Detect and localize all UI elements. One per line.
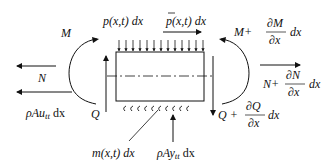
label-m-load: m(x,t) dx [92,146,135,160]
moment-left-arc [69,39,97,104]
svg-text:∂M: ∂M [267,16,284,30]
m-leader-line [129,110,158,141]
beam-element-diagram: M N ρAutt dx Q p(x,t) dx p(x,t) dx M+ ∂M… [0,0,336,168]
label-inertia-axial: ρAutt dx [25,106,65,121]
label-p-bar-load: p(x,t) dx [165,14,207,28]
svg-text:dx: dx [290,25,302,39]
label-M-right: M+ ∂M ∂x dx [233,16,302,47]
label-M-left: M [60,26,72,40]
distributed-moment-glyphs [124,106,189,111]
beam-element [116,52,204,101]
svg-text:dx: dx [309,77,321,91]
moment-right-arrowhead [219,37,226,43]
svg-text:∂x: ∂x [269,33,281,47]
moment-left-arrowhead [92,37,99,43]
label-p-load: p(x,t) dx [102,14,144,28]
svg-text:N+: N+ [262,77,279,91]
distributed-load-arrows [119,40,203,51]
label-N-right: N+ ∂N ∂x dx [262,68,321,99]
svg-text:∂Q: ∂Q [246,99,261,113]
svg-text:Q +: Q + [218,108,238,122]
svg-text:∂x: ∂x [288,85,300,99]
label-inertia-transverse: ρAytt dx [156,146,195,161]
label-N-left: N [37,71,47,85]
label-Q-right: Q + ∂Q ∂x dx [218,99,280,130]
svg-text:∂x: ∂x [248,116,260,130]
moment-right-arc [221,39,249,104]
svg-text:∂N: ∂N [286,68,301,82]
svg-text:dx: dx [268,108,280,122]
svg-text:M+: M+ [233,25,252,39]
label-Q-left: Q [91,107,100,121]
